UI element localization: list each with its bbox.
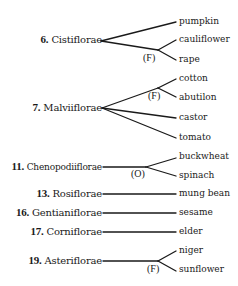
group-name: Chenopodiiflorae xyxy=(27,162,102,172)
branch-family-rape xyxy=(158,50,176,60)
branch-family-cauliflower xyxy=(158,40,176,50)
group-number: 6. xyxy=(41,33,49,45)
group-number: 13. xyxy=(36,187,49,199)
branch-cistiflorae-family xyxy=(101,41,158,50)
family-node-label: (F) xyxy=(147,264,159,274)
group-number: 17. xyxy=(30,225,43,237)
group-name: Malviiflorae xyxy=(43,102,102,113)
group-number: 11. xyxy=(11,160,24,172)
group-name: Rosiflorae xyxy=(53,188,102,199)
group-name: Corniflorae xyxy=(47,226,102,237)
crop-niger: niger xyxy=(179,246,203,255)
branch-family-cotton xyxy=(158,79,176,88)
group-number: 19. xyxy=(28,254,41,266)
branch-cistiflorae-pumpkin xyxy=(101,22,176,41)
group-label-chenopodiiflorae: 11. Chenopodiiflorae xyxy=(11,161,102,172)
branch-family-sunflower xyxy=(158,261,176,271)
group-label-corniflorae: 17. Corniflorae xyxy=(30,226,102,237)
crop-sunflower: sunflower xyxy=(179,265,224,274)
crop-abutilon: abutilon xyxy=(179,93,217,102)
family-node-label: (F) xyxy=(143,53,155,63)
crop-sesame: sesame xyxy=(179,208,213,217)
group-name: Asteriflorae xyxy=(45,255,102,266)
family-node-label: (F) xyxy=(148,91,160,101)
group-label-cistiflorae: 6. Cistiflorae xyxy=(41,34,102,45)
branch-order-spinach xyxy=(146,167,176,176)
group-name: Gentianiflorae xyxy=(32,207,102,218)
group-label-rosiflorae: 13. Rosiflorae xyxy=(36,188,102,199)
branch-family-abutilon xyxy=(158,88,176,97)
group-label-asteriflorae: 19. Asteriflorae xyxy=(28,255,102,266)
branch-family-niger xyxy=(158,251,176,261)
group-number: 16. xyxy=(16,206,29,218)
crop-castor: castor xyxy=(179,113,207,122)
group-name: Cistiflorae xyxy=(51,34,102,45)
group-label-gentianiflorae: 16. Gentianiflorae xyxy=(16,207,102,218)
crop-rape: rape xyxy=(179,55,200,64)
crop-tomato: tomato xyxy=(179,133,211,142)
crop-mung-bean: mung bean xyxy=(179,189,230,198)
order-node-label: (O) xyxy=(131,169,145,179)
group-number: 7. xyxy=(33,101,41,113)
crop-elder: elder xyxy=(179,227,203,236)
crop-spinach: spinach xyxy=(179,171,214,180)
crop-cotton: cotton xyxy=(179,74,208,83)
crop-pumpkin: pumpkin xyxy=(179,17,219,26)
branch-order-buckwheat xyxy=(146,158,176,167)
crop-cauliflower: cauliflower xyxy=(179,35,230,44)
crop-buckwheat: buckwheat xyxy=(179,152,229,161)
group-label-malviiflorae: 7. Malviiflorae xyxy=(33,102,102,113)
